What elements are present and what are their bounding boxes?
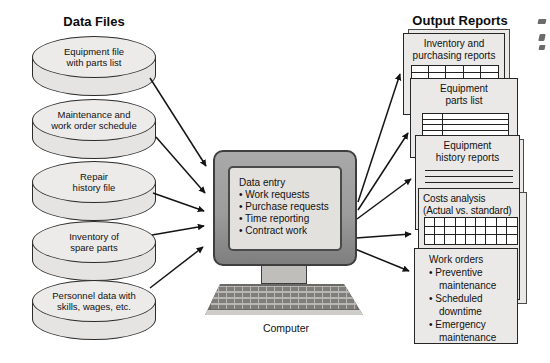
screen-entry-list: Work requests Purchase requests Time rep… bbox=[239, 189, 340, 237]
arrow-computer-to-report1 bbox=[358, 74, 400, 202]
data-file-equipment: Equipment file with parts list bbox=[32, 36, 156, 96]
screen-entry-item: Contract work bbox=[239, 225, 340, 237]
work-orders-item: Emergency maintenance bbox=[429, 318, 513, 344]
keyboard-front-edge bbox=[205, 310, 363, 315]
report-work-orders: Work orders Preventive maintenance Sched… bbox=[414, 248, 518, 344]
cylinder-label: Equipment file with parts list bbox=[32, 36, 156, 78]
report-title-line: parts list bbox=[411, 95, 517, 107]
computer-screen: Data entry Work requests Purchase reques… bbox=[228, 166, 342, 251]
arrow-computer-to-report5 bbox=[355, 249, 409, 271]
screen-entry-item: Work requests bbox=[239, 189, 340, 201]
report-title: Inventory and purchasing reports bbox=[404, 34, 504, 61]
arrow-computer-to-report4 bbox=[356, 234, 411, 238]
work-orders-list: Preventive maintenance Scheduled downtim… bbox=[429, 266, 513, 344]
report-title-line: Equipment bbox=[411, 83, 517, 95]
arrow-file2-to-computer bbox=[156, 137, 205, 193]
page-edge-text-fragment bbox=[538, 45, 545, 50]
cylinder-label: Personnel data with skills, wages, etc. bbox=[32, 280, 156, 322]
report-table-graphic bbox=[424, 217, 518, 245]
arrow-file3-to-computer bbox=[153, 193, 204, 211]
monitor-stand bbox=[261, 264, 307, 284]
data-file-personnel: Personnel data with skills, wages, etc. bbox=[32, 280, 156, 340]
computer-monitor: Data entry Work requests Purchase reques… bbox=[213, 150, 357, 266]
cylinder-label: Repair history file bbox=[32, 161, 156, 203]
report-title-line: Equipment bbox=[416, 140, 519, 152]
arrow-file5-to-computer bbox=[150, 247, 203, 288]
screen-entry-item: Purchase requests bbox=[239, 201, 340, 213]
output-reports-title: Output Reports bbox=[404, 13, 516, 28]
report-ruled-line bbox=[425, 170, 513, 171]
arrow-computer-to-report2 bbox=[358, 133, 408, 210]
computer-caption: Computer bbox=[246, 322, 326, 334]
report-title-line: history reports bbox=[416, 152, 519, 164]
screen-heading: Data entry bbox=[239, 177, 340, 189]
data-file-repair-history: Repair history file bbox=[32, 161, 156, 221]
report-title-line: Costs analysis bbox=[423, 193, 519, 205]
arrow-file4-to-computer bbox=[152, 226, 204, 235]
label-line: Maintenance and bbox=[58, 109, 131, 120]
maintenance-mis-diagram: Data Files Output Reports Equipment file… bbox=[0, 0, 550, 363]
page-edge-text-fragment bbox=[537, 19, 546, 24]
data-file-spare-parts-inventory: Inventory of spare parts bbox=[32, 221, 156, 281]
report-title: Equipment parts list bbox=[411, 79, 517, 106]
report-heading: Work orders bbox=[429, 253, 513, 266]
report-ruled-line bbox=[425, 176, 513, 177]
keyboard-keys bbox=[211, 286, 357, 309]
label-line: with parts list bbox=[67, 57, 122, 68]
report-ruled-line bbox=[425, 182, 513, 183]
arrow-computer-to-report3 bbox=[357, 179, 411, 219]
label-line: history file bbox=[73, 182, 116, 193]
cylinder-label: Maintenance and work order schedule bbox=[32, 99, 156, 141]
cylinder-label: Inventory of spare parts bbox=[32, 221, 156, 263]
computer-keyboard bbox=[205, 284, 363, 315]
report-title-line: (Actual vs. standard) bbox=[423, 205, 519, 217]
report-title: Equipment history reports bbox=[416, 136, 519, 163]
report-title: Costs analysis (Actual vs. standard) bbox=[419, 189, 519, 216]
label-line: spare parts bbox=[70, 242, 118, 253]
page-edge-text-fragment bbox=[538, 34, 545, 41]
label-line: Inventory of bbox=[69, 231, 119, 242]
work-orders-item: Preventive maintenance bbox=[429, 266, 513, 292]
report-table-graphic bbox=[422, 113, 509, 137]
label-line: Repair bbox=[80, 171, 108, 182]
report-title-line: purchasing reports bbox=[404, 50, 504, 62]
data-files-title: Data Files bbox=[32, 14, 156, 29]
label-line: work order schedule bbox=[51, 120, 137, 131]
label-line: Equipment file bbox=[64, 46, 124, 57]
arrow-file1-to-computer bbox=[150, 78, 206, 166]
label-line: Personnel data with bbox=[52, 290, 135, 301]
work-orders-item: Scheduled downtime bbox=[429, 292, 513, 318]
data-file-maintenance-schedule: Maintenance and work order schedule bbox=[32, 99, 156, 159]
report-title-line: Inventory and bbox=[404, 38, 504, 50]
screen-entry-item: Time reporting bbox=[239, 213, 340, 225]
label-line: skills, wages, etc. bbox=[57, 301, 131, 312]
